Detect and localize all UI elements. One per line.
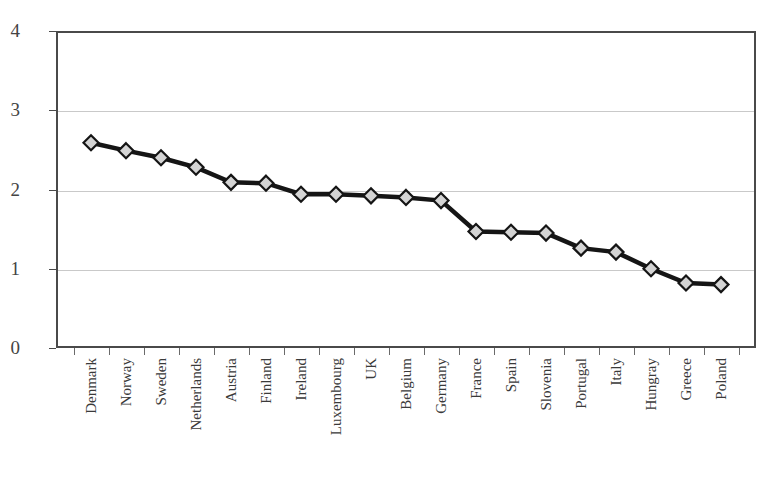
- x-axis-label-italy: Italy: [608, 358, 624, 478]
- y-tick-label: 0: [0, 338, 20, 357]
- x-axis-label-slovenia: Slovenia: [538, 358, 554, 478]
- x-axis-label-netherlands: Netherlands: [188, 358, 204, 478]
- y-tick-mark: [49, 110, 56, 111]
- x-axis-label-ireland: Ireland: [293, 358, 309, 478]
- x-tick-mark: [564, 348, 565, 355]
- x-axis-label-austria: Austria: [223, 358, 239, 478]
- y-tick-mark: [49, 269, 56, 270]
- x-axis-label-germany: Germany: [433, 358, 449, 478]
- x-axis-label-luxembourg: Luxembourg: [328, 358, 344, 478]
- x-tick-mark: [249, 348, 250, 355]
- x-tick-mark: [634, 348, 635, 355]
- x-tick-mark: [494, 348, 495, 355]
- y-tick-label: 3: [0, 100, 20, 119]
- x-tick-mark: [739, 348, 740, 355]
- x-tick-mark: [354, 348, 355, 355]
- x-axis-label-uk: UK: [363, 358, 379, 478]
- x-axis-label-belgium: Belgium: [398, 358, 414, 478]
- x-axis-label-denmark: Denmark: [83, 358, 99, 478]
- x-tick-mark: [599, 348, 600, 355]
- x-axis-label-sweden: Sweden: [153, 358, 169, 478]
- x-tick-mark: [214, 348, 215, 355]
- gridline: [58, 191, 754, 192]
- y-tick-mark: [49, 190, 56, 191]
- x-tick-mark: [179, 348, 180, 355]
- x-tick-mark: [284, 348, 285, 355]
- x-tick-mark: [704, 348, 705, 355]
- y-tick-label: 2: [0, 180, 20, 199]
- x-tick-mark: [424, 348, 425, 355]
- gridline: [58, 111, 754, 112]
- plot-area: [56, 31, 756, 348]
- x-axis-label-greece: Greece: [678, 358, 694, 478]
- x-axis-label-norway: Norway: [118, 358, 134, 478]
- x-axis-label-hungray: Hungray: [643, 358, 659, 478]
- x-tick-mark: [529, 348, 530, 355]
- y-tick-mark: [49, 31, 56, 32]
- y-tick-label: 1: [0, 259, 20, 278]
- gridline: [58, 270, 754, 271]
- x-tick-mark: [389, 348, 390, 355]
- y-tick-label: 4: [0, 21, 20, 40]
- x-axis-label-spain: Spain: [503, 358, 519, 478]
- x-axis-label-finland: Finland: [258, 358, 274, 478]
- chart-container: 01234 DenmarkNorwaySwedenNetherlandsAust…: [0, 0, 784, 480]
- y-tick-mark: [49, 348, 56, 349]
- x-tick-mark: [669, 348, 670, 355]
- x-axis-label-poland: Poland: [713, 358, 729, 478]
- x-axis-label-france: France: [468, 358, 484, 478]
- x-tick-mark: [459, 348, 460, 355]
- x-tick-mark: [319, 348, 320, 355]
- x-tick-mark: [109, 348, 110, 355]
- x-tick-mark: [144, 348, 145, 355]
- x-tick-mark: [74, 348, 75, 355]
- x-axis-label-portugal: Portugal: [573, 358, 589, 478]
